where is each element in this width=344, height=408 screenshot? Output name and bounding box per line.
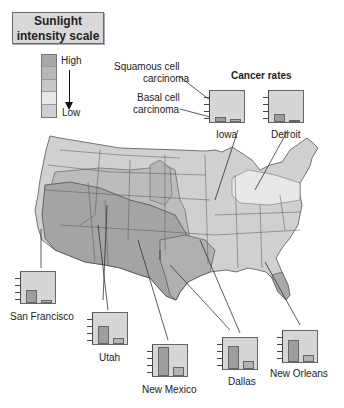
bar-squamous <box>243 361 254 369</box>
tick <box>263 104 269 105</box>
chart-new-mexico <box>152 344 188 377</box>
tick <box>87 319 93 320</box>
tick <box>147 358 153 359</box>
bar-basal <box>215 117 226 122</box>
tick <box>263 111 269 112</box>
tick <box>15 278 21 279</box>
tick <box>277 344 283 345</box>
tick <box>277 351 283 352</box>
bar-basal <box>98 326 109 344</box>
tick <box>217 344 223 345</box>
plains-region <box>150 160 172 205</box>
tick <box>217 365 223 366</box>
bar-basal <box>26 290 37 303</box>
chart-san-francisco <box>20 271 56 304</box>
tick <box>263 97 269 98</box>
bar-basal <box>288 340 299 362</box>
tick <box>15 285 21 286</box>
chart-iowa <box>209 90 245 123</box>
chart-utah <box>92 312 128 345</box>
label-dallas: Dallas <box>228 376 256 387</box>
tick <box>147 351 153 352</box>
bar-basal <box>274 114 285 122</box>
tick <box>204 97 210 98</box>
tick <box>147 372 153 373</box>
tick <box>15 292 21 293</box>
tick <box>204 111 210 112</box>
label-iowa: Iowa <box>216 129 237 140</box>
tick <box>15 299 21 300</box>
chart-detroit <box>268 90 304 123</box>
label-new-orleans: New Orleans <box>270 368 328 379</box>
label-utah: Utah <box>99 352 120 363</box>
bar-squamous <box>303 355 314 362</box>
tick <box>204 118 210 119</box>
chart-new-orleans <box>282 330 318 363</box>
tick <box>147 365 153 366</box>
tick <box>87 340 93 341</box>
bar-squamous <box>230 119 241 122</box>
tick <box>217 351 223 352</box>
bar-squamous <box>289 120 300 122</box>
tick <box>204 104 210 105</box>
tick <box>87 326 93 327</box>
bar-basal <box>228 346 239 369</box>
tick <box>263 118 269 119</box>
bar-basal <box>158 347 169 376</box>
florida-region <box>272 272 290 300</box>
tick <box>277 358 283 359</box>
chart-dallas <box>222 337 258 370</box>
bar-squamous <box>173 367 184 376</box>
tick <box>217 358 223 359</box>
bar-squamous <box>113 338 124 344</box>
tick <box>277 337 283 338</box>
bar-squamous <box>41 300 52 303</box>
label-new-mexico: New Mexico <box>142 384 196 395</box>
label-detroit: Detroit <box>271 129 300 140</box>
tick <box>87 333 93 334</box>
label-san-francisco: San Francisco <box>10 311 74 322</box>
